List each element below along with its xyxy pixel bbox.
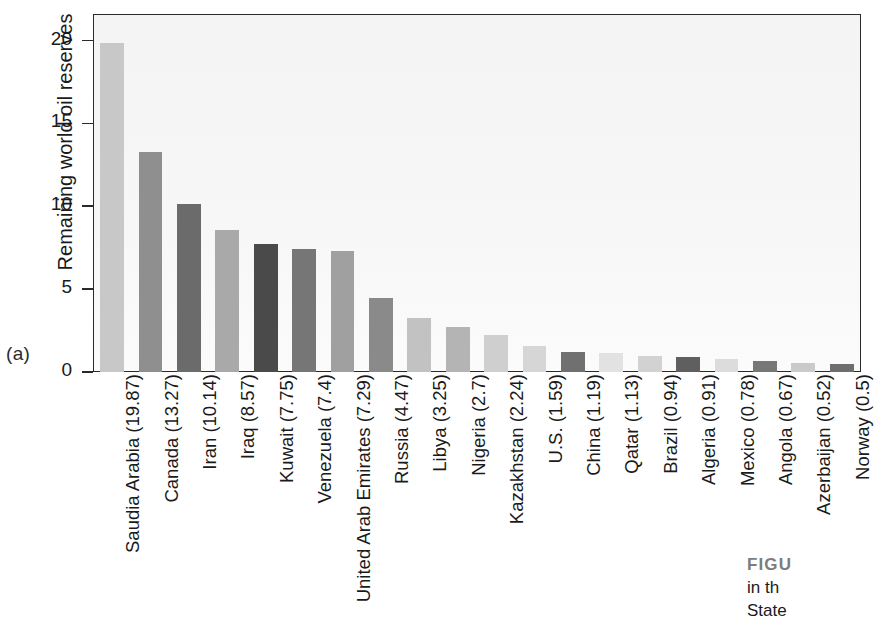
x-label-slot: United Arab Emirates (7.29) [331,374,355,549]
y-tick-label: 10 [38,193,72,215]
bar [599,353,623,372]
x-label-slot: Saudia Arabia (19.87) [100,374,124,549]
bar [331,251,355,372]
bar [177,204,201,372]
bar [791,363,815,372]
x-label-slot: Mexico (0.78) [715,374,739,549]
bar [561,352,585,372]
bar [215,230,239,372]
bar [139,152,163,372]
x-label-slot: Kuwait (7.75) [254,374,278,549]
bar [638,356,662,372]
y-tick-mark [82,40,93,42]
x-label-slot: Canada (13.27) [139,374,163,549]
x-label-slot: Iran (10.14) [177,374,201,549]
bar [523,346,547,372]
caption-line-2: in th [747,576,886,599]
bar [100,43,124,372]
x-label-slot: Brazil (0.94) [638,374,662,549]
bar [407,318,431,372]
y-tick-mark [82,205,93,207]
y-tick-label: 5 [38,276,72,298]
bar [254,244,278,372]
bar [830,364,854,372]
x-label-slot: Azerbaijan (0.52) [791,374,815,549]
x-tick-label: Norway (0.5) [851,374,875,480]
x-label-slot: Norway (0.5) [830,374,854,549]
bar [676,357,700,372]
x-label-slot: China (1.19) [561,374,585,549]
x-label-slot: Venezuela (7.4) [292,374,316,549]
y-tick-mark [82,371,93,373]
caption-heading: FIGU [747,553,886,576]
x-label-slot: Kazakhstan (2.24) [484,374,508,549]
x-label-slot: Iraq (8.57) [215,374,239,549]
bar [484,335,508,372]
panel-label: (a) [6,343,30,365]
y-tick-mark [82,288,93,290]
bar [292,249,316,372]
x-label-slot: Libya (3.25) [407,374,431,549]
caption-line-3: State [747,599,886,622]
bar [753,361,777,372]
y-tick-mark [82,123,93,125]
x-label-slot: Nigeria (2.7) [446,374,470,549]
y-tick-label: 15 [38,110,72,132]
x-label-slot: Angola (0.67) [753,374,777,549]
bar [715,359,739,372]
bar [369,298,393,372]
x-label-slot: U.S. (1.59) [523,374,547,549]
bar [446,327,470,372]
figure-caption: FIGU in th State [747,553,886,622]
x-axis-labels: Saudia Arabia (19.87)Canada (13.27)Iran … [93,374,861,554]
x-label-slot: Qatar (1.13) [599,374,623,549]
y-tick-label: 0 [38,359,72,381]
y-tick-label: 20 [38,28,72,50]
x-label-slot: Algeria (0.91) [676,374,700,549]
x-label-slot: Russia (4.47) [369,374,393,549]
bar-series [93,14,861,372]
